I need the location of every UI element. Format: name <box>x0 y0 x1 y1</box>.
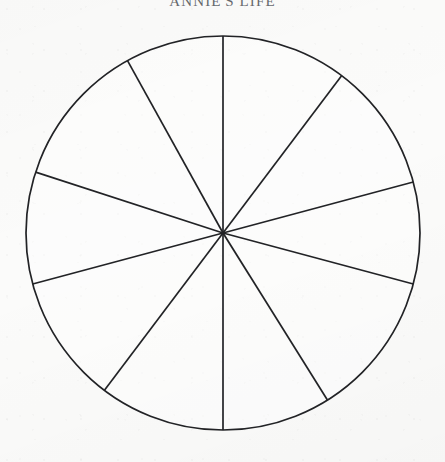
worksheet-page: ANNIE'S LIFE <box>0 0 445 462</box>
pie-chart <box>0 0 445 462</box>
pie-chart-svg <box>0 0 445 462</box>
